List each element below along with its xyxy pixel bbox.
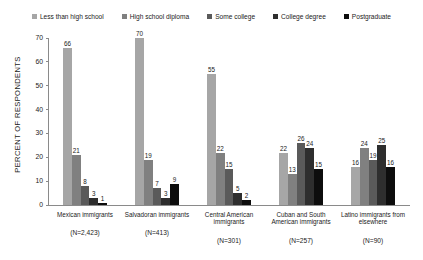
bar[interactable] [216,153,225,205]
bar[interactable] [377,145,386,205]
category-sample-size: (N=257) [268,237,334,245]
legend-item[interactable]: Some college [207,13,255,20]
bar[interactable] [170,184,179,205]
bar[interactable] [242,200,251,205]
bar[interactable] [314,169,323,205]
x-axis-labels: Mexican immigrants(N=2,423)Salvadoran im… [49,211,409,257]
category-name: Mexican immigrants [52,211,118,218]
legend-label: High school diploma [130,13,189,20]
bar-value-label: 26 [297,135,304,142]
y-axis-tick: 60 [0,58,49,66]
bar-group-bars: 7019739 [121,38,193,205]
bar-group: 1624192516 [337,38,409,205]
bar[interactable] [135,38,144,205]
bar[interactable] [144,160,153,205]
bar[interactable] [89,198,98,205]
bar-value-label: 2 [245,192,249,199]
legend-label: Less than high school [40,13,104,20]
y-axis-tick: 10 [0,177,49,185]
y-axis-tick-label: 50 [35,82,43,90]
bar-value-label: 55 [208,66,215,73]
legend-item[interactable]: Postgraduate [344,13,391,20]
bar-value-label: 16 [352,159,359,166]
bar-wrap: 8 [81,38,90,205]
bar-wrap: 22 [216,38,225,205]
legend-swatch-icon [344,14,349,19]
category-sample-size: (N=301) [196,237,262,245]
bar-value-label: 3 [92,190,96,197]
bar-value-label: 19 [369,152,376,159]
bar[interactable] [288,174,297,205]
category-name: Salvadoran immigrants [124,211,190,218]
bar-wrap: 66 [63,38,72,205]
bar[interactable] [207,74,216,205]
bar[interactable] [386,167,395,205]
category-sample-size: (N=2,423) [52,229,118,237]
y-axis-tick: 40 [0,106,49,114]
y-axis-tick-label: 70 [35,34,43,42]
bar-group-bars: 55221552 [193,38,265,205]
y-axis-tick: 0 [0,201,49,209]
bar-value-label: 22 [280,145,287,152]
bar-wrap: 24 [360,38,369,205]
y-axis-tick: 50 [0,82,49,90]
x-axis-label-cell: Salvadoran immigrants(N=413) [121,211,193,257]
bar[interactable] [72,155,81,205]
y-axis-ticks: 010203040506070 [0,0,49,260]
legend-swatch-icon [122,14,127,19]
bar-value-label: 70 [136,30,143,37]
bar[interactable] [98,203,107,205]
bar-value-label: 13 [289,166,296,173]
bar[interactable] [351,167,360,205]
y-axis-tick-label: 40 [35,106,43,114]
bar[interactable] [360,148,369,205]
bar[interactable] [225,169,234,205]
bar[interactable] [279,153,288,205]
bar-value-label: 15 [315,161,322,168]
bar-wrap: 7 [153,38,162,205]
bar-value-label: 9 [173,176,177,183]
bar-wrap: 21 [72,38,81,205]
y-axis-tick: 70 [0,34,49,42]
bar-value-label: 15 [225,161,232,168]
x-axis-label-cell: Central American immigrants(N=301) [193,211,265,257]
bar-group-bars: 1624192516 [337,38,409,205]
bar-wrap: 19 [144,38,153,205]
bar-value-label: 25 [378,137,385,144]
legend-label: Some college [215,13,255,20]
legend-swatch-icon [207,14,212,19]
bar[interactable] [369,160,378,205]
bar-wrap: 70 [135,38,144,205]
bar[interactable] [297,143,306,205]
bar[interactable] [153,188,162,205]
bar[interactable] [81,186,90,205]
category-name: Central American immigrants [196,211,262,226]
bar[interactable] [233,193,242,205]
bar-wrap: 1 [98,38,107,205]
bar-value-label: 19 [145,152,152,159]
bar-wrap: 3 [161,38,170,205]
legend-item[interactable]: College degree [273,13,326,20]
category-sample-size: (N=413) [124,229,190,237]
bar-group: 2213262415 [265,38,337,205]
legend-item[interactable]: High school diploma [122,13,189,20]
bar-value-label: 3 [164,190,168,197]
bar[interactable] [161,198,170,205]
y-axis-tick-label: 30 [35,129,43,137]
bar-group: 6621831 [49,38,121,205]
category-sample-size: (N=90) [340,237,406,245]
bar-wrap: 55 [207,38,216,205]
bar-wrap: 16 [386,38,395,205]
bar-wrap: 13 [288,38,297,205]
bar[interactable] [63,48,72,205]
y-axis-tick-label: 20 [35,153,43,161]
y-axis-tick: 20 [0,153,49,161]
bar-value-label: 1 [101,195,105,202]
bar[interactable] [305,148,314,205]
bar-groups: 6621831701973955221552221326241516241925… [49,38,409,205]
bar-value-label: 16 [387,159,394,166]
x-axis-label-cell: Latino immigrants from elsewhere(N=90) [337,211,409,257]
bar-value-label: 24 [361,140,368,147]
bar-wrap: 16 [351,38,360,205]
category-name: Latino immigrants from elsewhere [340,211,406,226]
